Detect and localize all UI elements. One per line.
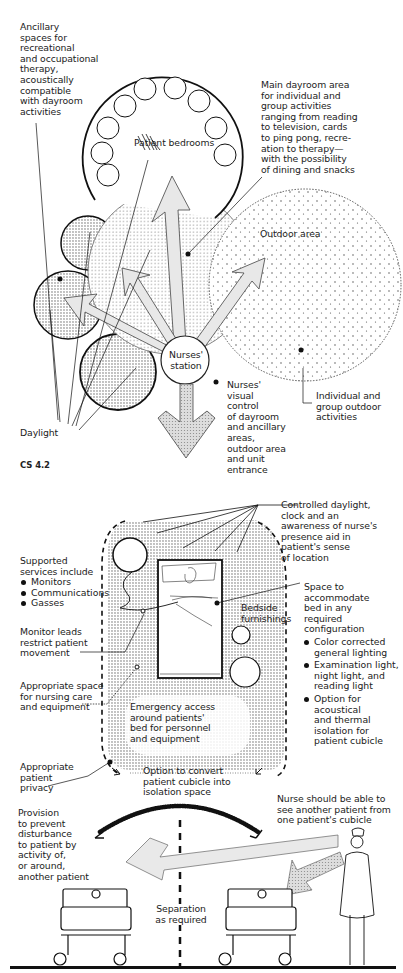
label-nurses-station: Nurses' station (167, 350, 205, 371)
label-controlled-daylight: Controlled daylight, clock and an awaren… (281, 500, 377, 564)
label-appropriate-space: Appropriate space for nursing care and e… (20, 681, 103, 713)
list-item: Examination light, night light, and read… (304, 660, 399, 692)
list-item: Monitors (21, 577, 109, 588)
label-emergency-access: Emergency access around patients' bed fo… (130, 702, 215, 744)
label-space-to-accommodate: Space to accommodate bed in any required… (304, 582, 369, 635)
monitor-circle (113, 538, 147, 572)
label-patient-bedrooms: Patient bedrooms (134, 138, 214, 149)
label-provision: Provision to prevent disturbance to pati… (18, 808, 89, 882)
label-main-dayroom: Main dayroom area for individual and gro… (261, 80, 358, 175)
list-item: Color corrected general lighting (304, 637, 399, 658)
label-bedside-furnishings: Bedside furnishings (241, 603, 291, 624)
list-lighting-options: Color corrected general lighting Examina… (304, 637, 399, 747)
label-nurse-see: Nurse should be able to see another pati… (277, 794, 391, 826)
label-daylight: Daylight (20, 428, 58, 439)
list-item: Gasses (21, 598, 109, 609)
label-appropriate-privacy: Appropriate patient privacy (20, 762, 74, 794)
nurse-figure (340, 828, 374, 965)
list-item: Option for acoustical and thermal isolat… (304, 694, 399, 747)
bed-right (219, 889, 296, 965)
label-monitor-leads: Monitor leads restrict patient movement (20, 627, 87, 659)
bedside-table-small (232, 626, 250, 644)
figure-caption: CS 4.2 (20, 460, 50, 471)
label-supported-services: Supported services include (20, 556, 93, 577)
bed-left (54, 889, 131, 965)
squiggle-arc (100, 806, 258, 832)
sight-arrow-right (286, 852, 344, 895)
bedside-table-large (230, 657, 260, 687)
bed-rectangle (158, 560, 222, 678)
floor-line (10, 966, 396, 969)
label-separation: Separation as required (152, 904, 210, 925)
entrance-arrow (158, 384, 215, 458)
label-ancillary-spaces: Ancillary spaces for recreational and oc… (20, 22, 98, 117)
label-nurses-visual-control: Nurses' visual control of dayroom and an… (227, 380, 286, 475)
label-option-convert: Option to convert patient cubicle into i… (143, 766, 231, 798)
list-supported-services: Monitors Communications Gasses (21, 577, 109, 609)
label-outdoor-area: Outdoor area (260, 229, 320, 240)
label-outdoor-activities: Individual and group outdoor activities (316, 391, 381, 423)
